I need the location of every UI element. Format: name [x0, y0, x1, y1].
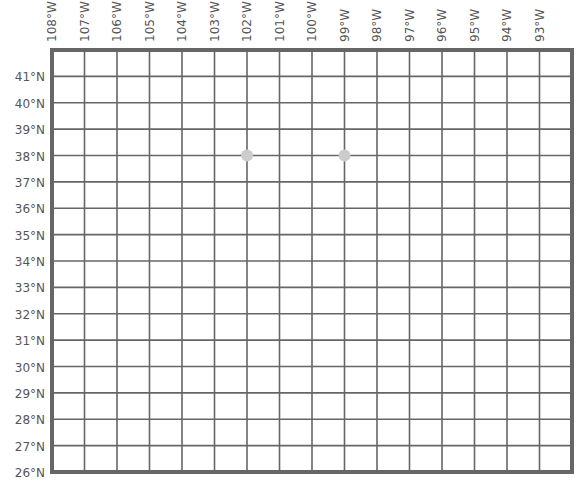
latitude-label: 37°N — [15, 176, 45, 190]
longitude-label: 106°W — [110, 1, 124, 42]
latitude-label: 30°N — [15, 361, 45, 375]
map-grid: 108°W107°W106°W105°W104°W103°W102°W101°W… — [0, 0, 584, 492]
latitude-label: 27°N — [15, 440, 45, 454]
latitude-label: 39°N — [15, 123, 45, 137]
longitude-label: 103°W — [208, 1, 222, 42]
latitude-label: 29°N — [15, 387, 45, 401]
longitude-label: 108°W — [45, 1, 59, 42]
longitude-label: 99°W — [338, 9, 352, 42]
map-point[interactable] — [339, 150, 351, 162]
latitude-label: 32°N — [15, 308, 45, 322]
longitude-label: 96°W — [435, 9, 449, 42]
longitude-label: 93°W — [533, 9, 547, 42]
grid-lines — [52, 50, 572, 472]
latitude-label: 26°N — [15, 466, 45, 480]
latitude-label: 41°N — [15, 70, 45, 84]
longitude-label: 98°W — [370, 9, 384, 42]
latitude-label: 40°N — [15, 97, 45, 111]
latitude-label: 38°N — [15, 150, 45, 164]
latitude-labels: 41°N40°N39°N38°N37°N36°N35°N34°N33°N32°N… — [15, 70, 45, 480]
latitude-label: 34°N — [15, 255, 45, 269]
latitude-label: 31°N — [15, 334, 45, 348]
latitude-label: 35°N — [15, 229, 45, 243]
latitude-label: 28°N — [15, 413, 45, 427]
longitude-label: 102°W — [240, 1, 254, 42]
longitude-label: 100°W — [305, 1, 319, 42]
latitude-label: 36°N — [15, 202, 45, 216]
map-point[interactable] — [241, 150, 253, 162]
longitude-label: 104°W — [175, 1, 189, 42]
longitude-label: 95°W — [468, 9, 482, 42]
longitude-label: 107°W — [78, 1, 92, 42]
longitude-labels: 108°W107°W106°W105°W104°W103°W102°W101°W… — [45, 1, 547, 42]
longitude-label: 105°W — [143, 1, 157, 42]
longitude-label: 97°W — [403, 9, 417, 42]
longitude-label: 101°W — [273, 1, 287, 42]
latitude-label: 33°N — [15, 281, 45, 295]
longitude-label: 94°W — [500, 9, 514, 42]
